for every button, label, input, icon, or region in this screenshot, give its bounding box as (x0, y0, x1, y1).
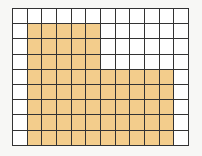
grid-cell-shaded (72, 24, 87, 39)
grid-cell-shaded (72, 100, 87, 115)
grid-cell-shaded (116, 70, 131, 85)
grid-cell-shaded (72, 39, 87, 54)
grid-cell-empty (101, 39, 116, 54)
grid-cell-empty (160, 9, 175, 24)
grid-cell-shaded (57, 100, 72, 115)
grid-cell-empty (160, 55, 175, 70)
grid-cell-shaded (160, 70, 175, 85)
grid-cell-shaded (145, 70, 160, 85)
grid-cell-shaded (57, 24, 72, 39)
grid-cell-shaded (28, 39, 43, 54)
grid-cell-shaded (86, 24, 101, 39)
grid-cell-shaded (57, 70, 72, 85)
grid-cell-shaded (116, 115, 131, 130)
grid-cell-shaded (42, 55, 57, 70)
grid-cell-empty (13, 55, 28, 70)
grid-cell-shaded (86, 70, 101, 85)
grid-cell-shaded (116, 85, 131, 100)
grid-cell-shaded (116, 131, 131, 146)
grid-cell-shaded (130, 115, 145, 130)
grid-cell-empty (130, 55, 145, 70)
grid-cell-shaded (145, 131, 160, 146)
grid-cell-shaded (57, 115, 72, 130)
grid-cell-shaded (101, 100, 116, 115)
grid-cell-shaded (145, 85, 160, 100)
grid-cell-empty (130, 39, 145, 54)
grid-cell-empty (160, 24, 175, 39)
grid-cell-shaded (130, 70, 145, 85)
grid-cell-empty (13, 70, 28, 85)
grid-cell-shaded (160, 85, 175, 100)
grid-cell-shaded (72, 85, 87, 100)
grid-cell-empty (174, 39, 189, 54)
grid-cell-empty (174, 24, 189, 39)
grid-cell-shaded (42, 131, 57, 146)
grid-cell-shaded (101, 70, 116, 85)
grid-cell-empty (86, 9, 101, 24)
grid-cell-shaded (86, 100, 101, 115)
grid-cell-empty (130, 9, 145, 24)
grid-cell-shaded (86, 115, 101, 130)
grid-cell-empty (13, 131, 28, 146)
grid-cell-shaded (72, 55, 87, 70)
grid-cell-shaded (72, 115, 87, 130)
grid-cell-empty (116, 24, 131, 39)
grid-cell-shaded (130, 85, 145, 100)
grid-cell-shaded (160, 131, 175, 146)
grid-cell-shaded (145, 115, 160, 130)
grid-cell-shaded (57, 39, 72, 54)
grid-cell-shaded (86, 55, 101, 70)
grid-cell-shaded (42, 24, 57, 39)
grid-cell-empty (160, 39, 175, 54)
grid-cell-empty (174, 115, 189, 130)
grid-cell-shaded (160, 115, 175, 130)
grid-cell-empty (101, 55, 116, 70)
grid-cell-shaded (72, 131, 87, 146)
shaded-grid-diagram (12, 8, 189, 146)
grid-cell-shaded (101, 85, 116, 100)
grid-cell-empty (116, 9, 131, 24)
grid-cell-empty (72, 9, 87, 24)
grid-cell-empty (174, 70, 189, 85)
grid-cell-empty (174, 85, 189, 100)
grid-cell-shaded (42, 100, 57, 115)
grid-cell-shaded (101, 115, 116, 130)
grid-cell-empty (174, 55, 189, 70)
grid-cell-shaded (116, 100, 131, 115)
grid-cell-shaded (42, 70, 57, 85)
grid-cell-empty (13, 24, 28, 39)
grid-cell-shaded (86, 85, 101, 100)
grid-cell-empty (57, 9, 72, 24)
grid-cell-shaded (28, 115, 43, 130)
grid-cell-empty (116, 39, 131, 54)
grid-cell-empty (130, 24, 145, 39)
grid-cell-empty (174, 9, 189, 24)
grid-cell-shaded (130, 100, 145, 115)
grid-cell-shaded (101, 131, 116, 146)
grid-cell-shaded (72, 70, 87, 85)
grid-cell-empty (174, 100, 189, 115)
grid-cell-empty (101, 9, 116, 24)
grid-cell-shaded (86, 131, 101, 146)
grid-cell-empty (13, 100, 28, 115)
grid-cell-shaded (42, 115, 57, 130)
grid-cell-shaded (57, 55, 72, 70)
grid-cell-shaded (130, 131, 145, 146)
grid-cell-shaded (57, 131, 72, 146)
grid-cell-empty (145, 39, 160, 54)
grid-cell-empty (116, 55, 131, 70)
grid-cell-shaded (28, 55, 43, 70)
grid-cell-shaded (28, 131, 43, 146)
grid-cell-empty (13, 39, 28, 54)
grid-cell-shaded (28, 70, 43, 85)
grid-cell-empty (174, 131, 189, 146)
grid-cell-shaded (28, 100, 43, 115)
grid-cell-empty (13, 115, 28, 130)
grid-cell-shaded (42, 39, 57, 54)
grid-cell-empty (145, 9, 160, 24)
grid-cell-empty (145, 55, 160, 70)
grid-cell-empty (42, 9, 57, 24)
grid-cell-empty (13, 9, 28, 24)
grid-cell-shaded (160, 100, 175, 115)
grid-cell-empty (28, 9, 43, 24)
